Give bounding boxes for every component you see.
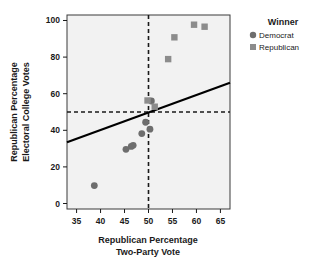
data-point-republican <box>152 103 158 109</box>
legend-title: Winner <box>268 17 299 27</box>
y-tick-label: 40 <box>51 125 61 135</box>
legend-marker-republican <box>250 44 256 50</box>
data-point-republican <box>201 24 207 30</box>
y-tick-label: 100 <box>46 15 60 25</box>
legend-marker-democrat <box>250 32 256 38</box>
y-tick-label: 60 <box>51 89 61 99</box>
legend-label-democrat: Democrat <box>259 31 294 40</box>
data-point-republican <box>144 97 150 103</box>
y-tick-label: 80 <box>51 52 61 62</box>
x-tick-label: 60 <box>192 216 202 226</box>
x-axis-title-line2: Two-Party Vote <box>116 247 180 257</box>
y-tick-label: 20 <box>51 162 61 172</box>
x-axis-title-line1: Republican Percentage <box>98 235 198 245</box>
x-tick-label: 45 <box>120 216 130 226</box>
data-point-republican <box>165 56 171 62</box>
data-point-republican <box>171 34 177 40</box>
y-tick-label: 0 <box>55 199 60 209</box>
x-tick-label: 35 <box>72 216 82 226</box>
data-point-republican <box>191 22 197 28</box>
data-point-democrat <box>147 126 154 133</box>
chart-container: 020406080100 35404550556065 Republican P… <box>0 0 311 270</box>
data-point-democrat <box>142 119 149 126</box>
data-point-democrat <box>138 130 145 137</box>
y-axis-title-line1: Republican Percentage <box>9 62 19 162</box>
y-axis-title-line2: Electoral College Votes <box>21 62 31 161</box>
x-tick-label: 40 <box>96 216 106 226</box>
x-tick-label: 65 <box>216 216 226 226</box>
data-point-democrat <box>130 142 137 149</box>
x-tick-label: 55 <box>168 216 178 226</box>
scatter-plot: 020406080100 35404550556065 Republican P… <box>0 0 311 270</box>
x-tick-label: 50 <box>144 216 154 226</box>
legend-label-republican: Republican <box>259 43 299 52</box>
data-point-democrat <box>91 182 98 189</box>
